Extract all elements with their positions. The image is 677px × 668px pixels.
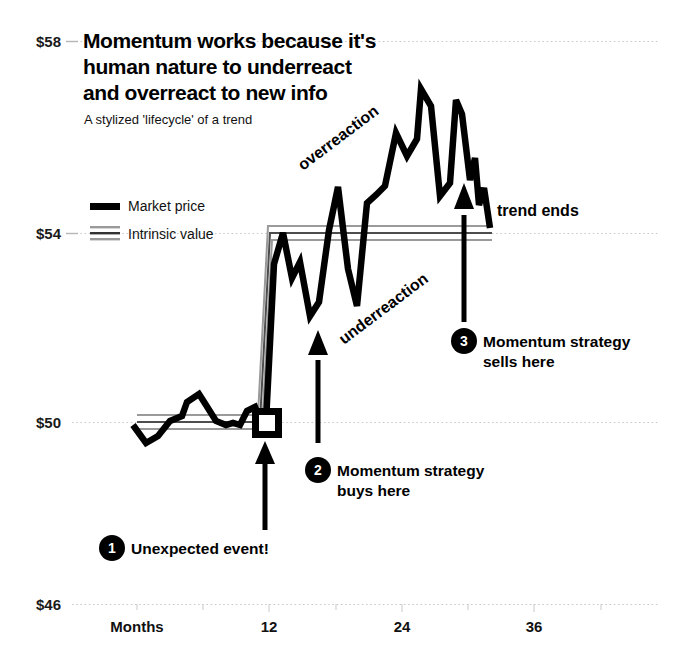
page-title-line-3: and overreact to new info xyxy=(83,81,327,104)
annotation-3-badge-number: 3 xyxy=(460,333,468,349)
y-tick-label-54: $54 xyxy=(36,225,62,242)
x-tick-label-12: 12 xyxy=(261,618,278,635)
legend-swatch-market-price xyxy=(90,203,120,210)
legend-label-market-price: Market price xyxy=(128,198,205,214)
chart-svg: $58 $54 $50 $46 Months 12 24 36 xyxy=(0,0,677,668)
page-title-line-1: Momentum works because it's xyxy=(83,29,376,52)
annotation-2: 2 Momentum strategy buys here xyxy=(305,330,485,499)
annotation-2-text-line-1: Momentum strategy xyxy=(337,462,485,479)
x-axis-labels: Months 12 24 36 xyxy=(110,618,542,635)
x-tick-label-36: 36 xyxy=(526,618,543,635)
x-axis-title: Months xyxy=(110,618,163,635)
annotation-3-arrow-head xyxy=(454,183,474,209)
event-marker-square-inner xyxy=(259,415,275,431)
label-trend-ends: trend ends xyxy=(497,202,579,219)
annotation-1-text: Unexpected event! xyxy=(131,540,269,557)
annotation-1: 1 Unexpected event! xyxy=(99,441,275,561)
legend-swatch-line-upper xyxy=(90,226,120,228)
market-price-line xyxy=(133,89,490,443)
legend-label-intrinsic-value: Intrinsic value xyxy=(128,226,214,242)
legend-swatch-intrinsic-value xyxy=(90,226,120,240)
intrinsic-line-mid xyxy=(137,233,492,422)
page-subtitle: A stylized 'lifecycle' of a trend xyxy=(84,112,252,127)
y-tick-label-46: $46 xyxy=(36,596,61,613)
y-axis-labels: $58 $54 $50 $46 xyxy=(36,33,62,613)
y-tick-label-58: $58 xyxy=(36,33,61,50)
chart-legend: Market price Intrinsic value xyxy=(90,198,214,242)
annotation-3-text-line-1: Momentum strategy xyxy=(483,333,631,350)
annotation-1-arrow-head xyxy=(255,441,275,464)
label-overreaction: overreaction xyxy=(295,102,382,173)
curve-label-overreaction: overreaction xyxy=(295,102,382,173)
event-marker xyxy=(252,408,282,438)
annotation-2-badge-number: 2 xyxy=(314,462,322,478)
page-title-line-2: human nature to underreact xyxy=(83,55,352,78)
y-axis-stubs xyxy=(66,42,78,234)
annotation-1-badge-number: 1 xyxy=(108,540,116,556)
chart-header: Momentum works because it's human nature… xyxy=(83,29,376,127)
legend-swatch-line-mid xyxy=(90,232,120,234)
intrinsic-line-upper xyxy=(137,226,492,415)
x-tick-label-24: 24 xyxy=(394,618,411,635)
x-axis-ticks xyxy=(137,604,601,612)
y-tick-label-50: $50 xyxy=(36,414,61,431)
chart-figure: $58 $54 $50 $46 Months 12 24 36 xyxy=(0,0,677,668)
annotation-3-text-line-2: sells here xyxy=(483,353,555,370)
annotation-2-arrow-head xyxy=(308,330,328,355)
legend-swatch-line-lower xyxy=(90,238,120,240)
annotation-2-text-line-2: buys here xyxy=(337,482,411,499)
